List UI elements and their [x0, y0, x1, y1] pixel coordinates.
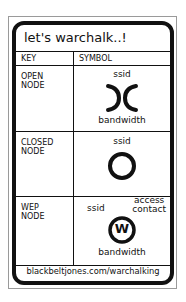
wep-node-key: WEP NODE	[16, 197, 74, 266]
contact-text: contact	[132, 205, 166, 214]
closed-node-icon	[107, 151, 137, 181]
ssid-label: ssid	[87, 203, 105, 213]
key-line: WEP	[21, 203, 73, 212]
key-line: NODE	[21, 147, 73, 156]
key-line: NODE	[21, 212, 73, 221]
bandwidth-label: bandwidth	[74, 247, 170, 257]
ssid-label: ssid	[74, 136, 170, 146]
bandwidth-label: bandwidth	[74, 115, 170, 125]
warchalk-card: let's warchalk..! KEY SYMBOL OPEN NODE s…	[12, 21, 174, 285]
open-node-key: OPEN NODE	[16, 66, 74, 132]
access-contact-label: access contact	[132, 196, 166, 214]
wep-letter: W	[107, 221, 137, 236]
card-title: let's warchalk..!	[16, 25, 170, 52]
key-line: OPEN	[21, 72, 73, 81]
open-node-icon	[104, 82, 140, 114]
closed-node-symbol-cell: ssid	[74, 132, 170, 197]
key-line: NODE	[21, 81, 73, 90]
ssid-label: ssid	[74, 69, 170, 79]
closed-node-key: CLOSED NODE	[16, 132, 74, 197]
key-header: KEY	[16, 52, 74, 66]
wep-node-symbol-cell: ssid access contact W bandwidth	[74, 197, 170, 266]
key-line: CLOSED	[21, 138, 73, 147]
symbol-header: SYMBOL	[74, 52, 170, 66]
footer-url: blackbeltjones.com/warchalking	[16, 262, 170, 281]
open-node-symbol-cell: ssid bandwidth	[74, 66, 170, 132]
